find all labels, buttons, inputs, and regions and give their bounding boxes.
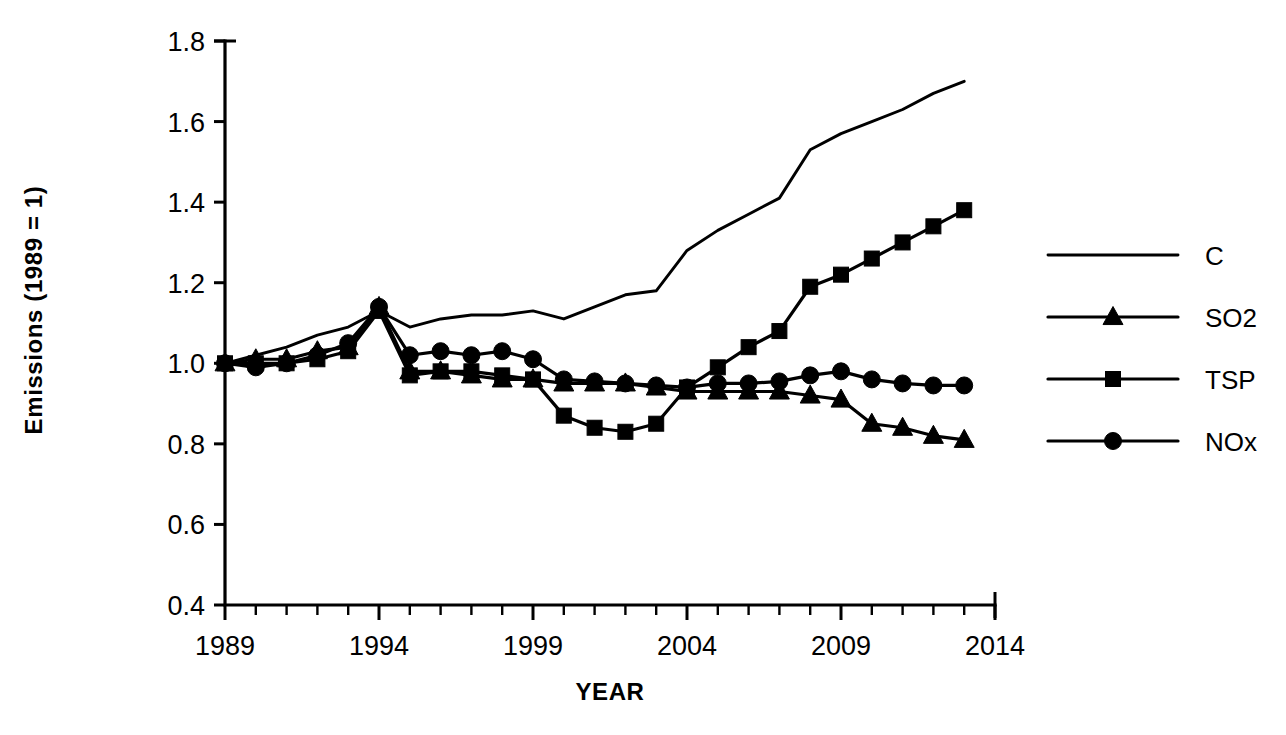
x-tick-label: 1989 (195, 631, 255, 661)
x-tick-label: 2014 (965, 631, 1025, 661)
marker-square (1106, 372, 1121, 387)
marker-circle (309, 347, 326, 364)
marker-circle (401, 347, 418, 364)
marker-square (895, 235, 910, 250)
marker-square (803, 279, 818, 294)
y-tick-label: 1.4 (167, 188, 205, 218)
marker-circle (586, 373, 603, 390)
legend-label: SO2 (1205, 303, 1257, 333)
marker-circle (833, 363, 850, 380)
marker-square (957, 203, 972, 218)
marker-circle (740, 375, 757, 392)
emissions-line-chart: 198919941999200420092014 0.40.60.81.01.2… (0, 0, 1286, 735)
marker-square (772, 324, 787, 339)
marker-circle (925, 377, 942, 394)
marker-square (649, 416, 664, 431)
marker-circle (956, 377, 973, 394)
marker-square (618, 424, 633, 439)
marker-circle (217, 355, 234, 372)
legend-label: TSP (1205, 365, 1256, 395)
marker-circle (863, 371, 880, 388)
marker-circle (771, 373, 788, 390)
marker-square (526, 372, 541, 387)
y-tick-label: 0.6 (167, 510, 205, 540)
marker-circle (679, 379, 696, 396)
marker-square (741, 340, 756, 355)
marker-square (402, 368, 417, 383)
marker-circle (463, 347, 480, 364)
marker-square (834, 267, 849, 282)
marker-square (495, 368, 510, 383)
y-axis-title: Emissions (1989 = 1) (20, 186, 47, 435)
legend-label: C (1205, 241, 1224, 271)
legend-label: NOx (1205, 427, 1257, 457)
marker-square (864, 251, 879, 266)
x-axis-title: YEAR (575, 678, 644, 705)
marker-square (587, 420, 602, 435)
marker-circle (648, 377, 665, 394)
x-tick-label: 2009 (811, 631, 871, 661)
y-tick-label: 1.0 (167, 349, 205, 379)
marker-circle (802, 367, 819, 384)
marker-circle (371, 298, 388, 315)
y-tick-label: 1.2 (167, 269, 205, 299)
y-tick-label: 0.8 (167, 430, 205, 460)
marker-circle (432, 343, 449, 360)
marker-square (433, 364, 448, 379)
marker-circle (1105, 433, 1122, 450)
y-tick-label: 1.6 (167, 108, 205, 138)
marker-square (710, 360, 725, 375)
marker-circle (247, 359, 264, 376)
marker-circle (894, 375, 911, 392)
x-tick-label: 1994 (349, 631, 409, 661)
marker-circle (340, 335, 357, 352)
y-tick-label: 0.4 (167, 591, 205, 621)
marker-circle (278, 355, 295, 372)
y-tick-label: 1.8 (167, 27, 205, 57)
x-tick-label: 2004 (657, 631, 717, 661)
marker-circle (494, 343, 511, 360)
marker-circle (709, 375, 726, 392)
x-tick-label: 1999 (503, 631, 563, 661)
marker-circle (525, 351, 542, 368)
marker-square (556, 408, 571, 423)
marker-square (464, 364, 479, 379)
marker-square (926, 219, 941, 234)
chart-canvas: 198919941999200420092014 0.40.60.81.01.2… (0, 0, 1286, 735)
marker-circle (555, 371, 572, 388)
marker-circle (617, 375, 634, 392)
